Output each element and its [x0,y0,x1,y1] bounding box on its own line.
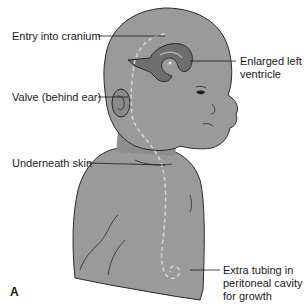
infant-body-drawing [0,0,307,307]
label-extra-tubing-3: for growth [223,290,272,303]
label-enlarged-ventricle-2: ventricle [240,68,281,81]
panel-letter: A [10,285,19,299]
label-enlarged-ventricle-1: Enlarged left [240,55,302,68]
label-valve-behind-ear: Valve (behind ear) [12,91,101,104]
ear [112,89,130,117]
label-extra-tubing-2: peritoneal cavity [223,277,303,290]
torso [73,147,204,300]
label-extra-tubing-1: Extra tubing in [223,264,293,277]
label-underneath-skin: Underneath skin [12,157,92,170]
label-entry-into-cranium: Entry into cranium [12,30,101,43]
shunt-illustration: Entry into cranium Enlarged left ventric… [0,0,307,307]
